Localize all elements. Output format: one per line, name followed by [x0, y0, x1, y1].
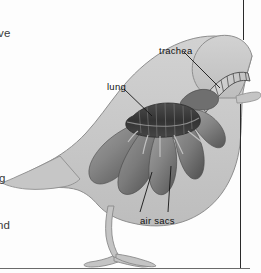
diagram-page: ve g nd trachea lung air sacs	[0, 0, 261, 273]
label-air-sacs: air sacs	[140, 215, 175, 226]
right-border-rule-bottom	[240, 104, 241, 268]
margin-text-fragment-2: g	[0, 172, 6, 184]
right-border-rule-top	[243, 0, 244, 40]
margin-text-fragment-1: ve	[0, 27, 11, 39]
margin-text-fragment-3: nd	[0, 219, 10, 231]
bottom-border-rule	[0, 268, 250, 269]
label-trachea: trachea	[159, 45, 192, 56]
label-lung: lung	[107, 81, 126, 92]
bird-respiratory-system-figure	[0, 0, 261, 273]
